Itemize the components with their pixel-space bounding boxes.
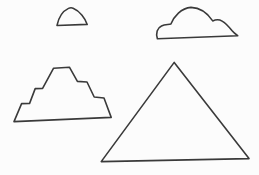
line-drawing [0, 0, 259, 175]
stepped-pyramid-shape [14, 67, 111, 121]
cloud-shape [157, 7, 238, 38]
figure-canvas [0, 0, 259, 175]
triangle-shape [101, 62, 249, 161]
dome-shape [57, 8, 87, 26]
